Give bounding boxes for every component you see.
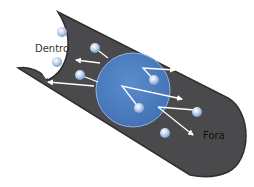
label-outside: Fora bbox=[203, 130, 225, 142]
molecule-icon bbox=[90, 43, 100, 53]
molecule-icon bbox=[57, 27, 67, 37]
label-inside: Dentro bbox=[35, 43, 69, 55]
molecule-icon bbox=[52, 57, 62, 67]
membrane-sphere bbox=[96, 53, 170, 127]
molecule-icon bbox=[75, 70, 85, 80]
diffusion-diagram bbox=[0, 0, 254, 187]
molecule-icon bbox=[160, 128, 170, 138]
molecule-icon bbox=[134, 103, 144, 113]
molecule-icon bbox=[192, 107, 202, 117]
molecule-icon bbox=[149, 75, 159, 85]
